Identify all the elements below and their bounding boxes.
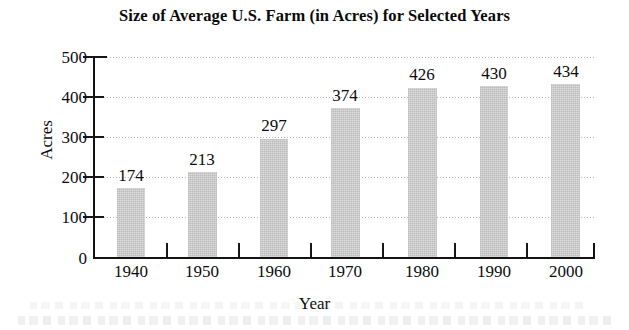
value-label-1970: 374: [315, 87, 375, 104]
y-axis-title: Acres: [37, 105, 57, 175]
y-tick-label-500: 500: [27, 49, 87, 66]
y-tick-label-0: 0: [27, 250, 87, 267]
x-tick-label-1940: 1940: [96, 263, 166, 280]
x-axis-right-cap: [593, 243, 595, 258]
bar-chart: Size of Average U.S. Farm (in Acres) for…: [0, 0, 629, 330]
x-tick-label-1970: 1970: [310, 263, 380, 280]
value-label-2000: 434: [536, 63, 596, 80]
y-axis-line: [93, 56, 95, 259]
y-tick-label-200: 200: [27, 169, 87, 186]
x-axis-line: [93, 257, 595, 259]
scan-bleed-artifact-lower: [18, 316, 618, 325]
value-label-1940: 174: [101, 167, 161, 184]
x-tick-label-1950: 1950: [167, 263, 237, 280]
x-tick-1: [238, 243, 240, 258]
chart-title: Size of Average U.S. Farm (in Acres) for…: [0, 6, 629, 26]
x-tick-label-2000: 2000: [531, 263, 601, 280]
x-tick-4: [454, 243, 456, 258]
x-tick-label-1980: 1980: [387, 263, 457, 280]
x-tick-3: [382, 243, 384, 258]
x-tick-label-1990: 1990: [459, 263, 529, 280]
bar-1940: [117, 188, 145, 258]
bar-1960: [260, 139, 288, 258]
value-label-1960: 297: [244, 117, 304, 134]
x-axis-title: Year: [0, 294, 629, 314]
gridline-500: [95, 57, 594, 58]
value-label-1980: 426: [392, 66, 452, 83]
bar-1980: [408, 88, 437, 258]
y-tick-label-300: 300: [27, 129, 87, 146]
bar-2000: [551, 84, 580, 258]
value-label-1990: 430: [464, 65, 524, 82]
y-tick-label-400: 400: [27, 89, 87, 106]
bar-1990: [480, 86, 508, 258]
value-label-1950: 213: [172, 151, 232, 168]
x-tick-2: [310, 243, 312, 258]
x-tick-label-1960: 1960: [239, 263, 309, 280]
x-tick-5: [526, 243, 528, 258]
y-tick-label-100: 100: [27, 209, 87, 226]
x-tick-0: [166, 243, 168, 258]
bar-1970: [331, 108, 360, 258]
bar-1950: [188, 172, 217, 258]
